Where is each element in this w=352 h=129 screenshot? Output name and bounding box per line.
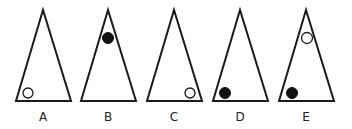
filled-circle-icon	[103, 33, 114, 44]
triangle-a	[16, 10, 71, 101]
option-b[interactable]: B	[81, 10, 136, 124]
open-circle-icon	[185, 88, 195, 98]
open-circle-icon	[302, 33, 313, 44]
triangle-options-figure: A B C D E	[0, 0, 352, 129]
option-label-e: E	[302, 110, 310, 124]
filled-circle-icon	[287, 88, 298, 99]
open-circle-icon	[23, 88, 33, 98]
triangle-b	[81, 10, 136, 101]
filled-circle-icon	[220, 88, 231, 99]
option-label-b: B	[104, 110, 112, 124]
option-label-a: A	[39, 110, 48, 124]
triangle-e	[279, 10, 334, 101]
option-label-d: D	[235, 110, 244, 124]
option-d[interactable]: D	[213, 10, 268, 124]
option-c[interactable]: C	[147, 10, 202, 124]
option-e[interactable]: E	[279, 10, 334, 124]
triangle-c	[147, 10, 202, 101]
option-a[interactable]: A	[16, 10, 71, 124]
option-label-c: C	[170, 110, 178, 124]
triangle-d	[213, 10, 268, 101]
